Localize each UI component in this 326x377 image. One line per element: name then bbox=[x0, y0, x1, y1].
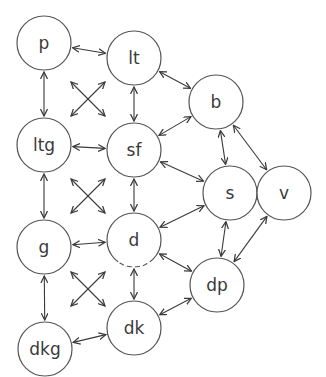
cross-arrow-marker bbox=[71, 82, 105, 116]
node-v: v bbox=[257, 166, 311, 220]
edge-dkg-dk bbox=[73, 335, 106, 343]
node-label: dp bbox=[206, 275, 228, 295]
cross-arrow-marker bbox=[71, 272, 105, 306]
edge-sf-b bbox=[159, 117, 191, 136]
node-ltg: ltg bbox=[17, 118, 71, 172]
node-b: b bbox=[189, 75, 243, 129]
node-label: p bbox=[39, 33, 50, 53]
edge-d-s bbox=[160, 206, 204, 227]
edge-g-d bbox=[73, 242, 105, 245]
nodes-layer: pltbltgsfsvgddpdkgdk bbox=[17, 16, 311, 376]
edge-d-dp bbox=[159, 254, 191, 271]
node-dkg: dkg bbox=[18, 322, 72, 376]
cross-arrow-marker bbox=[71, 179, 105, 213]
node-label: ltg bbox=[33, 135, 55, 155]
node-lt: lt bbox=[107, 31, 161, 85]
edge-ltg-sf bbox=[73, 147, 105, 149]
diagram-canvas: pltbltgsfsvgddpdkgdk bbox=[0, 0, 326, 377]
edge-p-lt bbox=[73, 48, 106, 53]
edge-b-v bbox=[233, 125, 266, 170]
edge-v-dp bbox=[234, 216, 267, 261]
node-label: dkg bbox=[29, 339, 60, 359]
node-s: s bbox=[203, 166, 257, 220]
node-d: d bbox=[107, 213, 161, 267]
node-label: v bbox=[279, 183, 289, 203]
node-p: p bbox=[17, 16, 71, 70]
edge-b-s bbox=[220, 131, 225, 165]
graph-diagram: pltbltgsfsvgddpdkgdk bbox=[0, 0, 326, 377]
edge-dk-dp bbox=[160, 298, 192, 314]
node-label: lt bbox=[128, 48, 140, 68]
node-dk: dk bbox=[107, 301, 161, 355]
node-label: d bbox=[129, 230, 140, 250]
node-label: s bbox=[226, 183, 235, 203]
node-label: b bbox=[211, 92, 222, 112]
node-label: g bbox=[39, 237, 50, 257]
node-label: dk bbox=[124, 318, 145, 338]
node-dp: dp bbox=[190, 258, 244, 312]
node-label: sf bbox=[127, 140, 143, 160]
node-g: g bbox=[17, 220, 71, 274]
cross-markers-layer bbox=[71, 82, 105, 306]
edge-sf-s bbox=[160, 162, 203, 181]
edge-s-dp bbox=[221, 222, 226, 257]
edge-lt-b bbox=[160, 72, 191, 89]
node-sf: sf bbox=[107, 123, 161, 177]
